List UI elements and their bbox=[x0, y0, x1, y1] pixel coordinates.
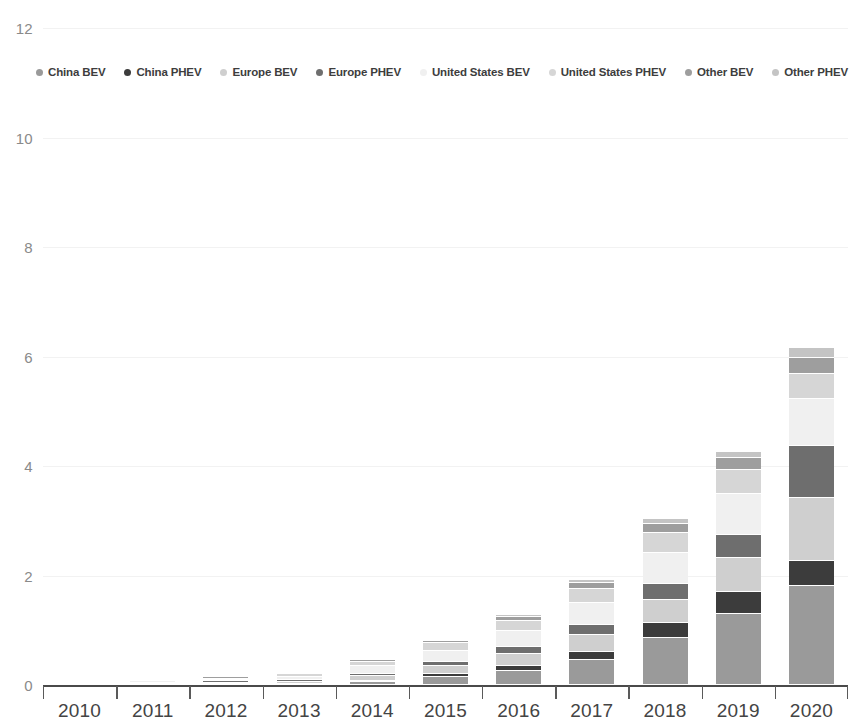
bar-2011[interactable] bbox=[130, 680, 175, 685]
bar-segment-2019-united-states-phev[interactable] bbox=[716, 470, 761, 494]
bar-segment-2017-united-states-phev[interactable] bbox=[569, 589, 614, 603]
bar-segment-2018-china-phev[interactable] bbox=[643, 623, 688, 638]
bar-segment-2018-united-states-bev[interactable] bbox=[643, 553, 688, 584]
bars-layer bbox=[43, 20, 848, 686]
bar-2013[interactable] bbox=[277, 672, 322, 685]
x-axis-tick bbox=[775, 686, 776, 699]
bar-segment-2018-china-bev[interactable] bbox=[643, 638, 688, 685]
x-axis-tick-label: 2014 bbox=[351, 700, 394, 722]
bar-segment-2019-united-states-bev[interactable] bbox=[716, 494, 761, 535]
bar-2012[interactable] bbox=[203, 677, 248, 685]
bar-segment-2014-china-bev[interactable] bbox=[350, 682, 395, 685]
bar-segment-2015-china-bev[interactable] bbox=[423, 677, 468, 685]
y-axis-tick-label: 12 bbox=[3, 20, 33, 37]
x-axis-tick-label: 2011 bbox=[132, 700, 174, 722]
bar-segment-2017-europe-phev[interactable] bbox=[569, 625, 614, 635]
bar-segment-2020-europe-phev[interactable] bbox=[789, 446, 834, 498]
y-axis-labels: 024681012 bbox=[0, 20, 33, 686]
x-axis-tick bbox=[702, 686, 703, 699]
bar-segment-2019-china-bev[interactable] bbox=[716, 614, 761, 685]
x-axis-tick bbox=[409, 686, 410, 699]
bar-segment-2017-united-states-bev[interactable] bbox=[569, 603, 614, 625]
bar-segment-2018-europe-phev[interactable] bbox=[643, 584, 688, 600]
bar-segment-2016-europe-phev[interactable] bbox=[496, 647, 541, 654]
x-axis-tick bbox=[555, 686, 556, 699]
bar-segment-2020-china-bev[interactable] bbox=[789, 586, 834, 685]
x-axis-tick-label: 2018 bbox=[643, 700, 686, 722]
legend-dot-china-bev-icon bbox=[36, 69, 43, 76]
bar-segment-2017-china-bev[interactable] bbox=[569, 660, 614, 685]
x-axis-tick-label: 2015 bbox=[424, 700, 467, 722]
bar-2014[interactable] bbox=[350, 659, 395, 685]
x-axis-tick-label: 2012 bbox=[204, 700, 247, 722]
bar-segment-2018-europe-bev[interactable] bbox=[643, 600, 688, 623]
y-axis-tick-label: 10 bbox=[3, 129, 33, 146]
bar-segment-2014-united-states-bev[interactable] bbox=[350, 666, 395, 674]
y-axis-tick-label: 6 bbox=[3, 348, 33, 365]
bar-segment-2017-europe-bev[interactable] bbox=[569, 635, 614, 651]
x-axis-tick-label: 2017 bbox=[570, 700, 613, 722]
bar-2015[interactable] bbox=[423, 640, 468, 685]
y-axis-tick-label: 4 bbox=[3, 458, 33, 475]
bar-segment-2015-united-states-phev[interactable] bbox=[423, 643, 468, 650]
x-axis-tick bbox=[336, 686, 337, 699]
bar-segment-2018-other-bev[interactable] bbox=[643, 524, 688, 533]
bar-segment-2016-europe-bev[interactable] bbox=[496, 654, 541, 665]
x-axis-tick bbox=[189, 686, 190, 699]
stacked-bar-chart: China BEVChina PHEVEurope BEVEurope PHEV… bbox=[0, 0, 856, 722]
x-axis-tick bbox=[482, 686, 483, 699]
y-axis-tick-label: 2 bbox=[3, 567, 33, 584]
bar-segment-2020-united-states-phev[interactable] bbox=[789, 374, 834, 400]
bar-segment-2016-china-bev[interactable] bbox=[496, 671, 541, 685]
bar-segment-2015-europe-bev[interactable] bbox=[423, 666, 468, 674]
bar-segment-2020-united-states-bev[interactable] bbox=[789, 399, 834, 446]
x-axis-tick bbox=[43, 686, 44, 699]
x-axis-tick bbox=[116, 686, 117, 699]
bar-segment-2020-europe-bev[interactable] bbox=[789, 498, 834, 561]
bar-segment-2017-china-phev[interactable] bbox=[569, 652, 614, 661]
x-axis-tick bbox=[263, 686, 264, 699]
bar-segment-2020-other-bev[interactable] bbox=[789, 358, 834, 374]
bar-segment-2012-china-bev[interactable] bbox=[203, 684, 248, 685]
bar-segment-2016-united-states-bev[interactable] bbox=[496, 631, 541, 647]
x-axis-tick bbox=[847, 686, 848, 699]
bar-segment-2013-china-bev[interactable] bbox=[277, 684, 322, 685]
x-axis-tick-label: 2019 bbox=[717, 700, 760, 722]
y-axis-tick-label: 0 bbox=[3, 677, 33, 694]
bar-segment-2019-europe-phev[interactable] bbox=[716, 535, 761, 558]
x-axis-tick-label: 2010 bbox=[58, 700, 101, 722]
x-axis: 2010201120122013201420152016201720182019… bbox=[43, 686, 848, 722]
bar-2019[interactable] bbox=[716, 452, 761, 685]
x-axis-tick-label: 2016 bbox=[497, 700, 540, 722]
bar-2020[interactable] bbox=[789, 348, 834, 685]
bar-segment-2020-other-phev[interactable] bbox=[789, 348, 834, 357]
bar-2016[interactable] bbox=[496, 615, 541, 685]
bar-segment-2019-other-bev[interactable] bbox=[716, 458, 761, 471]
bar-segment-2016-united-states-phev[interactable] bbox=[496, 621, 541, 631]
bar-2017[interactable] bbox=[569, 580, 614, 685]
bar-segment-2019-china-phev[interactable] bbox=[716, 592, 761, 614]
x-axis-tick-label: 2013 bbox=[278, 700, 321, 722]
bar-segment-2011-china-bev[interactable] bbox=[130, 684, 175, 685]
bar-segment-2015-united-states-bev[interactable] bbox=[423, 651, 468, 662]
x-axis-tick bbox=[628, 686, 629, 699]
bar-2018[interactable] bbox=[643, 519, 688, 685]
bar-segment-2019-europe-bev[interactable] bbox=[716, 558, 761, 592]
y-axis-tick-label: 8 bbox=[3, 239, 33, 256]
bar-segment-2018-united-states-phev[interactable] bbox=[643, 533, 688, 553]
bar-segment-2020-china-phev[interactable] bbox=[789, 561, 834, 587]
x-axis-tick-label: 2020 bbox=[790, 700, 833, 722]
